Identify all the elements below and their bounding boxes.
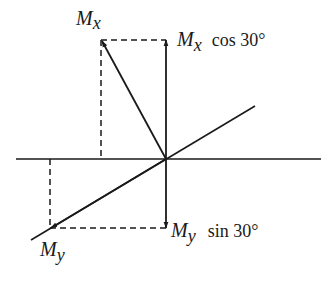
- label-my-sin30: Mysin 30°: [170, 219, 258, 246]
- label-my: My: [39, 238, 65, 265]
- label-mx: Mx: [75, 7, 101, 33]
- my-vector-arrow: [51, 159, 166, 228]
- moment-decomposition-diagram: Mx Mxcos 30° Mysin 30° My: [0, 0, 333, 283]
- label-mx-cos30: Mxcos 30°: [176, 28, 265, 55]
- mx-vector-arrow: [102, 41, 166, 159]
